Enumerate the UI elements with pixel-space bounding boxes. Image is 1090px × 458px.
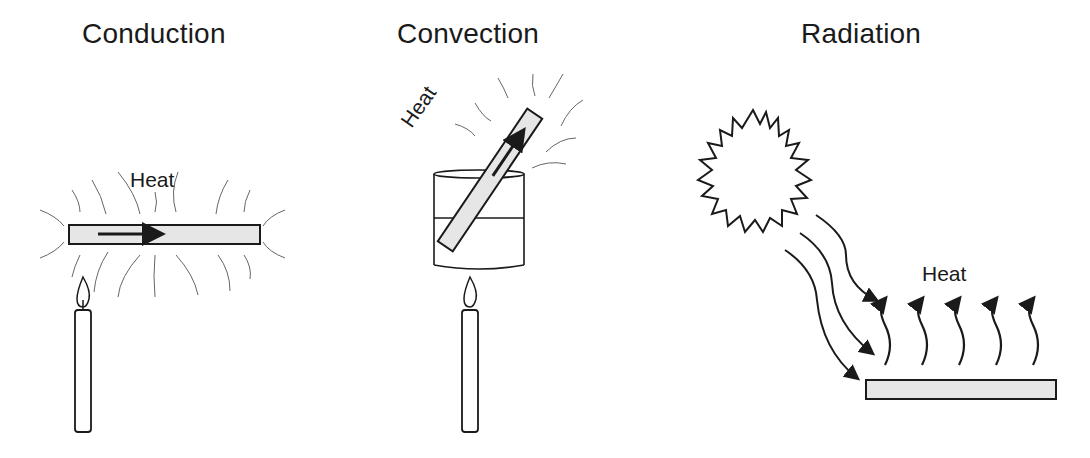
absorbing-plate xyxy=(866,380,1056,399)
candle-icon xyxy=(462,277,478,432)
radiation-panel xyxy=(698,110,1056,399)
candle-icon xyxy=(75,277,91,432)
conduction-panel xyxy=(40,172,285,432)
diagram-canvas xyxy=(0,0,1090,458)
tilted-rod xyxy=(438,109,542,252)
convection-panel xyxy=(434,74,583,432)
radiation-rays-icon xyxy=(785,215,876,378)
metal-rod xyxy=(69,225,260,244)
sun-icon xyxy=(698,110,811,232)
rising-heat-arrows-icon xyxy=(881,299,1038,365)
